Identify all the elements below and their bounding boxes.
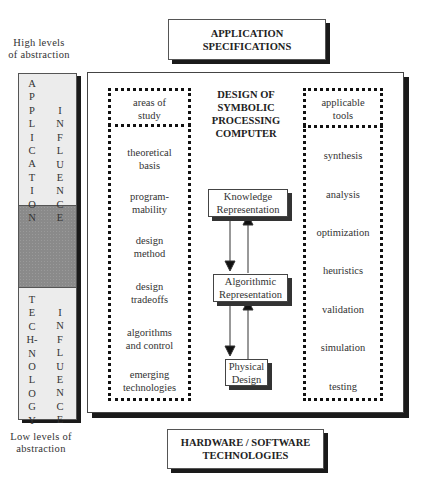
application-word: APPLICATION <box>26 77 38 224</box>
vertical-letter: N <box>54 319 66 332</box>
vertical-letter: E <box>26 306 38 319</box>
flow-line-1: Algorithmic <box>225 275 276 288</box>
vertical-letter: A <box>26 77 38 90</box>
vertical-letter: F <box>54 333 66 346</box>
vertical-letter: N <box>26 211 38 224</box>
vertical-letter: C <box>54 198 66 211</box>
vertical-letter: E <box>54 413 66 426</box>
vertical-letter: C <box>26 320 38 333</box>
vertical-letter: T <box>26 293 38 306</box>
vertical-letter: E <box>54 373 66 386</box>
vertical-letter: O <box>26 360 38 373</box>
application-specifications-box: APPLICATION SPECIFICATIONS <box>168 19 326 60</box>
top-box-line-2: SPECIFICATIONS <box>169 40 325 53</box>
vertical-letter: P <box>26 104 38 117</box>
vertical-letter: L <box>54 144 66 157</box>
vertical-letter: N <box>26 347 38 360</box>
vertical-letter: N <box>54 117 66 130</box>
influence-word-top: INFLUENCE <box>54 104 66 225</box>
physical-design-box: Physical Design <box>225 359 268 386</box>
technology-word: TECH-NOLOGY <box>26 293 38 427</box>
vertical-letter: L <box>26 373 38 386</box>
hardware-software-technologies-box: HARDWARE / SOFTWARE TECHNOLOGIES <box>167 429 324 469</box>
main-design-box: DESIGN OF SYMBOLIC PROCESSING COMPUTER a… <box>87 72 404 413</box>
vertical-letter: P <box>26 90 38 103</box>
arrow-down-icon <box>225 261 235 271</box>
knowledge-representation-box: Knowledge Representation <box>208 189 288 217</box>
vertical-letter: H- <box>26 333 38 346</box>
vertical-letter: I <box>26 131 38 144</box>
flow-line-2: Design <box>232 373 262 386</box>
top-box-line-1: APPLICATION <box>169 27 325 40</box>
arrow-down-icon <box>225 346 235 356</box>
vertical-letter: L <box>54 346 66 359</box>
low-abstraction-line-1: Low levels of <box>2 431 80 443</box>
vertical-letter: C <box>26 144 38 157</box>
vertical-letter: N <box>54 386 66 399</box>
vertical-letter: L <box>26 117 38 130</box>
flow-line-2: Representation <box>217 203 280 216</box>
bottom-box-line-1: HARDWARE / SOFTWARE <box>168 436 323 449</box>
vertical-letter: E <box>54 171 66 184</box>
vertical-letter: C <box>54 400 66 413</box>
vertical-letter: U <box>54 360 66 373</box>
vertical-letter: N <box>54 184 66 197</box>
high-abstraction-line-1: High levels <box>2 37 76 49</box>
influence-column: APPLICATION INFLUENCE TECH-NOLOGY INFLUE… <box>18 73 77 420</box>
low-abstraction-label: Low levels of abstraction <box>2 431 80 455</box>
vertical-letter: F <box>54 131 66 144</box>
high-abstraction-line-2: of abstraction <box>2 49 76 61</box>
vertical-letter: T <box>26 171 38 184</box>
vertical-letter: E <box>54 211 66 224</box>
flow-line-1: Knowledge <box>224 190 272 203</box>
high-abstraction-label: High levels of abstraction <box>2 37 76 61</box>
vertical-letter: I <box>54 104 66 117</box>
vertical-letter: G <box>26 400 38 413</box>
influence-word-bottom: INFLUENCE <box>54 306 66 427</box>
vertical-letter: I <box>54 306 66 319</box>
vertical-letter: Y <box>26 414 38 427</box>
flow-line-1: Physical <box>229 360 265 373</box>
vertical-letter: O <box>26 387 38 400</box>
vertical-letter: U <box>54 158 66 171</box>
low-abstraction-line-2: abstraction <box>2 443 80 455</box>
flow-line-2: Representation <box>219 288 282 301</box>
vertical-letter: O <box>26 198 38 211</box>
vertical-letter: A <box>26 157 38 170</box>
vertical-letter: I <box>26 184 38 197</box>
bottom-box-line-2: TECHNOLOGIES <box>168 449 323 462</box>
algorithmic-representation-box: Algorithmic Representation <box>213 274 288 302</box>
